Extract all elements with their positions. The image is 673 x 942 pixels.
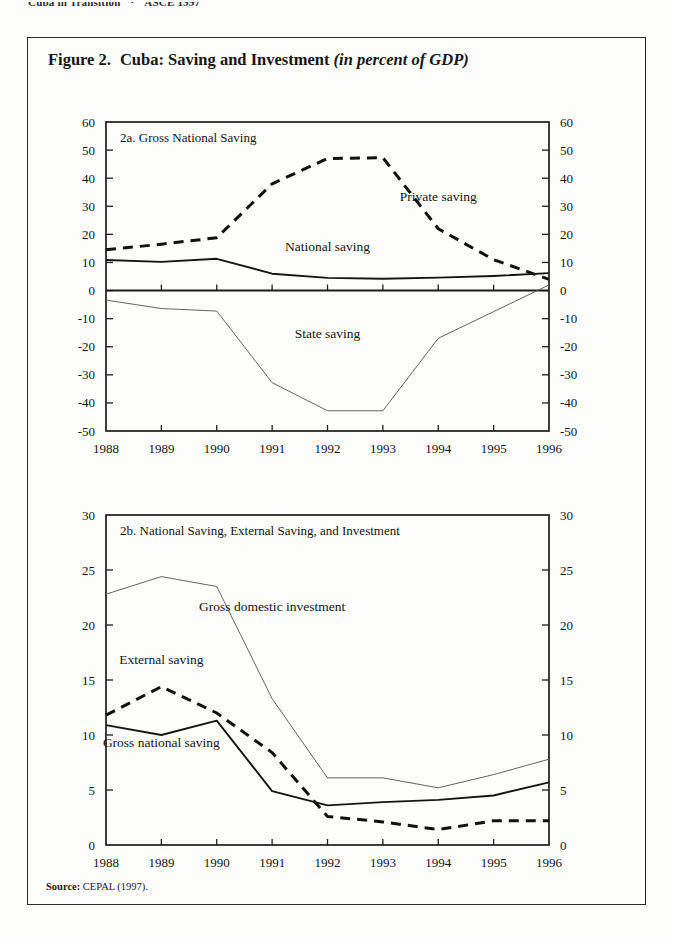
y-axis-tick-label-left: 20 bbox=[82, 618, 95, 633]
x-axis-year-label: 1991 bbox=[259, 441, 285, 456]
series-annotation-label: National saving bbox=[285, 239, 370, 254]
y-axis-tick-label-right: 10 bbox=[560, 728, 573, 743]
y-axis-tick-label-right: -50 bbox=[560, 424, 577, 439]
y-axis-tick-label-left: 40 bbox=[82, 171, 95, 186]
y-axis-tick-label-right: 15 bbox=[560, 673, 573, 688]
running-head-left: Cuba in Transition bbox=[28, 0, 120, 8]
y-axis-tick-label-left: 10 bbox=[82, 728, 95, 743]
y-axis-tick-label-right: 0 bbox=[560, 838, 567, 853]
figure-title-subtitle: (in percent of GDP) bbox=[334, 50, 469, 69]
y-axis-tick-label-left: 15 bbox=[82, 673, 95, 688]
x-axis-year-label: 1990 bbox=[204, 441, 230, 456]
y-axis-tick-label-right: -40 bbox=[560, 395, 577, 410]
x-axis-year-label: 1996 bbox=[536, 855, 563, 870]
y-axis-tick-label-right: -30 bbox=[560, 367, 577, 382]
y-axis-tick-label-left: 5 bbox=[89, 783, 96, 798]
x-axis-year-label: 1991 bbox=[259, 855, 285, 870]
y-axis-tick-label-left: 25 bbox=[82, 563, 95, 578]
series-line bbox=[106, 721, 549, 806]
series-annotation-label: Gross domestic investment bbox=[199, 599, 345, 614]
y-axis-tick-label-right: -10 bbox=[560, 311, 577, 326]
y-axis-tick-label-left: 30 bbox=[82, 508, 95, 523]
x-axis-year-label: 1990 bbox=[204, 855, 230, 870]
x-axis-year-label: 1993 bbox=[370, 441, 396, 456]
y-axis-tick-label-left: -10 bbox=[78, 311, 95, 326]
x-axis-year-label: 1989 bbox=[148, 441, 174, 456]
chart-panel-2a: 60605050404030302020101000-10-10-20-20-3… bbox=[28, 98, 647, 508]
y-axis-tick-label-left: -50 bbox=[78, 424, 95, 439]
figure-title: Figure 2.Cuba: Saving and Investment (in… bbox=[48, 50, 469, 70]
x-axis-year-label: 1989 bbox=[148, 855, 174, 870]
y-axis-tick-label-right: 60 bbox=[560, 115, 573, 130]
series-line bbox=[106, 259, 549, 279]
source-text: CEPAL (1997). bbox=[83, 881, 148, 892]
y-axis-tick-label-right: 40 bbox=[560, 171, 573, 186]
x-axis-year-label: 1996 bbox=[536, 441, 563, 456]
y-axis-tick-label-left: 10 bbox=[82, 255, 95, 270]
x-axis-year-label: 1995 bbox=[481, 855, 507, 870]
x-axis-year-label: 1994 bbox=[425, 855, 452, 870]
y-axis-tick-label-left: -40 bbox=[78, 395, 95, 410]
x-axis-year-label: 1993 bbox=[370, 855, 396, 870]
y-axis-tick-label-left: 0 bbox=[89, 838, 96, 853]
y-axis-tick-label-right: 5 bbox=[560, 783, 567, 798]
running-head-right: ASCE 1997 bbox=[144, 0, 200, 8]
y-axis-tick-label-right: -20 bbox=[560, 339, 577, 354]
x-axis-year-label: 1994 bbox=[425, 441, 452, 456]
y-axis-tick-label-right: 50 bbox=[560, 143, 573, 158]
running-head: Cuba in Transition·ASCE 1997 bbox=[28, 0, 200, 8]
y-axis-tick-label-right: 10 bbox=[560, 255, 573, 270]
series-line bbox=[106, 687, 549, 830]
y-axis-tick-label-left: 30 bbox=[82, 199, 95, 214]
chart-panel-2b: 3030252520201515101055001988198919901991… bbox=[28, 493, 647, 883]
y-axis-tick-label-right: 30 bbox=[560, 508, 573, 523]
panel-caption: 2b. National Saving, External Saving, an… bbox=[120, 523, 400, 538]
y-axis-tick-label-left: -30 bbox=[78, 367, 95, 382]
series-line bbox=[106, 285, 549, 411]
series-annotation-label: Private saving bbox=[400, 189, 477, 204]
running-head-separator: · bbox=[120, 0, 144, 8]
figure-number: Figure 2. bbox=[48, 50, 111, 69]
x-axis-year-label: 1992 bbox=[315, 855, 341, 870]
x-axis-year-label: 1988 bbox=[93, 855, 119, 870]
y-axis-tick-label-right: 0 bbox=[560, 283, 567, 298]
y-axis-tick-label-left: 50 bbox=[82, 143, 95, 158]
chart-2a-svg: 60605050404030302020101000-10-10-20-20-3… bbox=[28, 98, 647, 508]
x-axis-year-label: 1988 bbox=[93, 441, 119, 456]
y-axis-tick-label-right: 20 bbox=[560, 227, 573, 242]
y-axis-tick-label-right: 20 bbox=[560, 618, 573, 633]
y-axis-tick-label-left: -20 bbox=[78, 339, 95, 354]
panel-caption: 2a. Gross National Saving bbox=[120, 130, 257, 145]
chart-2b-svg: 3030252520201515101055001988198919901991… bbox=[28, 493, 647, 883]
series-annotation-label: External saving bbox=[119, 652, 204, 667]
x-axis-year-label: 1995 bbox=[481, 441, 507, 456]
source-note: Source: CEPAL (1997). bbox=[46, 881, 148, 892]
series-annotation-label: Gross national saving bbox=[103, 735, 220, 750]
y-axis-tick-label-left: 0 bbox=[89, 283, 96, 298]
y-axis-tick-label-left: 20 bbox=[82, 227, 95, 242]
figure-title-main: Cuba: Saving and Investment bbox=[120, 50, 330, 69]
y-axis-tick-label-right: 30 bbox=[560, 199, 573, 214]
y-axis-tick-label-left: 60 bbox=[82, 115, 95, 130]
y-axis-tick-label-right: 25 bbox=[560, 563, 573, 578]
x-axis-year-label: 1992 bbox=[315, 441, 341, 456]
figure-box: Figure 2.Cuba: Saving and Investment (in… bbox=[27, 37, 646, 905]
source-label: Source: bbox=[46, 881, 80, 892]
page-canvas: Cuba in Transition·ASCE 1997 Figure 2.Cu… bbox=[0, 0, 673, 942]
series-annotation-label: State saving bbox=[295, 326, 361, 341]
